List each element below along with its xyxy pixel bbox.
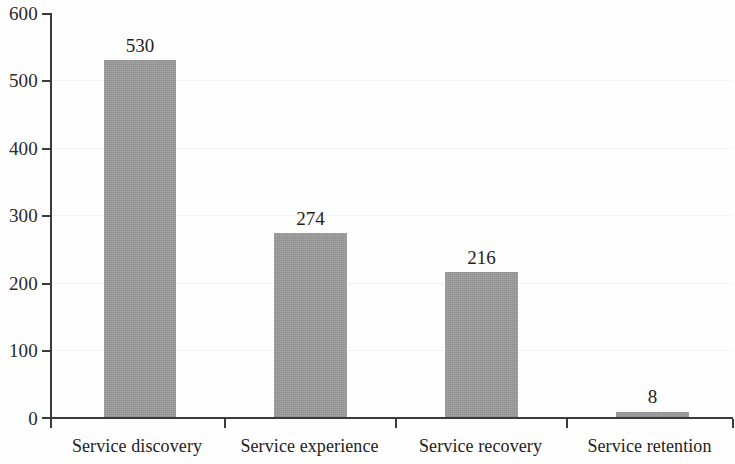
y-tick-200 (42, 283, 51, 285)
bar-value-service-recovery: 216 (445, 248, 518, 268)
bar-value-service-experience: 274 (274, 209, 347, 229)
x-category-label-service-retention: Service retention (566, 436, 733, 456)
bar-service-experience[interactable] (274, 233, 347, 418)
x-tick-0 (50, 419, 52, 428)
y-tick-label-100: 100 (0, 341, 38, 360)
bar-service-recovery[interactable] (445, 272, 518, 418)
bar-value-service-retention: 8 (616, 387, 689, 407)
x-tick-4 (732, 419, 734, 428)
bar-chart-figure: 600 500 400 300 200 100 0 530 274 216 8 (0, 0, 735, 464)
x-axis-line (50, 417, 733, 419)
x-category-label-service-discovery: Service discovery (50, 436, 224, 456)
x-category-label-service-experience: Service experience (224, 436, 395, 456)
y-tick-300 (42, 215, 51, 217)
y-tick-label-200: 200 (0, 274, 38, 293)
bar-service-discovery[interactable] (104, 60, 176, 418)
y-tick-500 (42, 80, 51, 82)
y-tick-label-500: 500 (0, 71, 38, 90)
y-tick-label-0: 0 (0, 409, 38, 428)
x-tick-3 (566, 419, 568, 428)
y-tick-label-600: 600 (0, 4, 38, 23)
y-tick-label-300: 300 (0, 206, 38, 225)
y-tick-600 (42, 13, 51, 15)
y-tick-400 (42, 148, 51, 150)
x-tick-1 (224, 419, 226, 428)
plot-area: 600 500 400 300 200 100 0 530 274 216 8 (0, 0, 735, 464)
x-tick-2 (395, 419, 397, 428)
y-tick-100 (42, 350, 51, 352)
y-tick-label-400: 400 (0, 139, 38, 158)
bar-value-service-discovery: 530 (104, 36, 176, 56)
x-category-label-service-recovery: Service recovery (395, 436, 566, 456)
